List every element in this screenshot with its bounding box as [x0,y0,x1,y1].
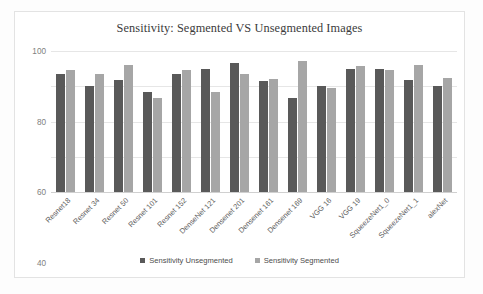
legend-swatch-icon [255,258,260,263]
bar-group [341,51,370,192]
bar-group [196,51,225,192]
bar-segmented [124,65,133,192]
bar-unsegmented [375,69,384,192]
bar-segmented [240,74,249,192]
bar-unsegmented [114,80,123,192]
legend-item[interactable]: Sensitivity Unsegmented [140,256,233,265]
bar-group [138,51,167,192]
y-axis-tick-label: 60 [37,188,46,197]
y-axis-tick-label: 100 [32,47,46,56]
x-axis-line [51,192,457,193]
bar-unsegmented [172,74,181,192]
bar-segmented [298,61,307,192]
bar-segmented [414,65,423,192]
bar-group [51,51,80,192]
bar-segmented [95,74,104,192]
x-axis-tick-label: VGG 19 [337,196,362,221]
bar-series-container [51,51,457,192]
bar-segmented [443,78,452,192]
x-axis-label-cell: VGG 16 [312,194,341,256]
x-axis-tick-label: alexNet [425,196,449,220]
bar-group [167,51,196,192]
bar-segmented [153,98,162,192]
x-axis-label-cell: alexNet [428,194,457,256]
bar-unsegmented [288,98,297,192]
bar-group [399,51,428,192]
bar-segmented [385,70,394,192]
bar-segmented [327,88,336,192]
bar-unsegmented [56,74,65,192]
bar-group [428,51,457,192]
legend-label: Sensitivity Segmented [264,256,339,265]
bar-segmented [269,79,278,192]
bar-segmented [356,66,365,192]
legend-item[interactable]: Sensitivity Segmented [255,256,339,265]
bar-unsegmented [143,92,152,192]
bar-unsegmented [230,63,239,192]
x-axis-tick-label: Resnet18 [43,196,72,225]
bar-unsegmented [346,69,355,192]
y-axis-tick-label: 80 [37,117,46,126]
bar-group [312,51,341,192]
bar-unsegmented [317,86,326,192]
bar-group [225,51,254,192]
chart-title: Sensitivity: Segmented VS Unsegmented Im… [15,21,464,36]
x-axis-label-cell: SqueezeNet1_1 [399,194,428,256]
bar-group [80,51,109,192]
bar-unsegmented [259,81,268,192]
plot-area: 10080604020 [51,51,457,192]
legend-swatch-icon [140,258,145,263]
legend-label: Sensitivity Unsegmented [149,256,233,265]
bar-segmented [211,92,220,192]
bar-group [109,51,138,192]
x-axis-labels: Resnet18Resnet 34Resnet 50Resnet 101Resn… [51,194,457,256]
bar-group [254,51,283,192]
bar-unsegmented [85,86,94,192]
bar-segmented [182,70,191,192]
chart-legend: Sensitivity UnsegmentedSensitivity Segme… [15,256,464,265]
bar-group [370,51,399,192]
bar-unsegmented [201,69,210,192]
chart-page: Sensitivity: Segmented VS Unsegmented Im… [0,0,483,294]
bar-unsegmented [433,86,442,192]
chart-frame: Sensitivity: Segmented VS Unsegmented Im… [14,11,465,278]
x-axis-label-cell: Densenet 169 [283,194,312,256]
x-axis-tick-label: VGG 16 [308,196,333,221]
bar-group [283,51,312,192]
bar-segmented [66,70,75,192]
bar-unsegmented [404,80,413,192]
